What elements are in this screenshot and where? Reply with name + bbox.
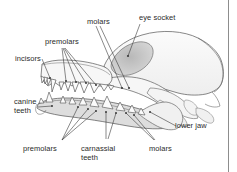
arrow-premolars-bottom-c [95, 110, 97, 112]
arrow-premolars-bottom-a [77, 106, 79, 108]
arrow-molars-bottom-a [125, 112, 127, 114]
arrow-premolars-top-c [85, 82, 87, 84]
right-border-rule [228, 0, 229, 172]
label-premolars-bottom: premolars [23, 145, 57, 154]
label-canine-teeth-line2: teeth [14, 107, 31, 116]
lower-incisor-group [39, 98, 44, 103]
lower-canine [46, 92, 53, 102]
arrow-carnassial-a [105, 111, 107, 113]
arrow-eye-socket [127, 55, 129, 57]
label-lower-jaw: lower jaw [175, 122, 207, 131]
arrow-lower-jaw [149, 111, 151, 113]
arrow-molars-top-b [128, 87, 130, 89]
label-carnassial-teeth-line2: teeth [81, 154, 98, 163]
arrow-incisors [49, 77, 51, 79]
label-incisors: incisors [15, 55, 41, 64]
arrow-molars-bottom-b [133, 114, 135, 116]
label-molars-bottom: molars [149, 145, 172, 154]
upper-molar-1 [100, 84, 108, 91]
arrow-canine [51, 105, 53, 107]
skull-diagram-figure: molars eye socket premolars incisors can… [0, 0, 237, 172]
arrow-molars-top-a [121, 87, 123, 89]
upper-molar-2 [108, 85, 114, 90]
upper-premolar-2 [65, 82, 71, 91]
label-premolars-top: premolars [45, 38, 79, 47]
upper-premolar-3 [72, 82, 79, 92]
rear-skull-edge [205, 92, 220, 107]
arrow-premolars-top-b [75, 81, 77, 83]
upper-carnassial [90, 83, 100, 93]
arrow-premolars-bottom-b [87, 108, 89, 110]
arrow-premolars-top-d [95, 84, 97, 86]
upper-premolar-1 [59, 82, 64, 90]
upper-canine [51, 79, 56, 92]
upper-premolar-4 [80, 82, 89, 93]
label-molars-top: molars [87, 18, 110, 27]
arrow-carnassial-b [115, 112, 117, 114]
arrow-premolars-top-a [65, 80, 67, 82]
label-eye-socket: eye socket [139, 14, 175, 23]
